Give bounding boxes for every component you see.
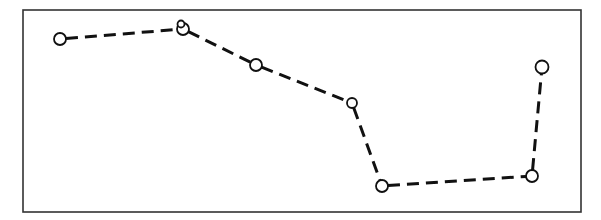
open-circle-marker: [526, 170, 538, 182]
dashed-series-line: [66, 29, 541, 185]
open-circle-marker: [54, 33, 66, 45]
line-segment: [66, 29, 177, 38]
line-segment: [354, 108, 380, 181]
line-segment: [533, 73, 542, 170]
line-segment: [388, 176, 526, 185]
open-circle-marker: [376, 180, 388, 192]
data-markers: [54, 21, 549, 193]
open-circle-marker: [178, 21, 185, 28]
line-segment: [188, 32, 250, 63]
open-circle-marker: [347, 98, 357, 108]
plot-frame: [23, 10, 581, 212]
line-segment: [262, 67, 348, 101]
open-circle-marker: [250, 59, 262, 71]
line-chart: [0, 0, 601, 220]
open-circle-marker: [536, 61, 549, 74]
